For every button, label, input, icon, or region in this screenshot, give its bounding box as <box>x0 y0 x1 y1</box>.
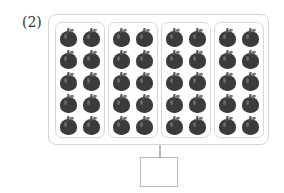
answer-box[interactable] <box>140 157 178 187</box>
apple-icon <box>59 50 78 69</box>
apple-icon <box>165 94 184 113</box>
apple-icon <box>165 72 184 91</box>
apple-icon <box>59 94 78 113</box>
apple-icon <box>82 94 101 113</box>
apple-icon <box>135 28 154 47</box>
apple-icon <box>241 50 260 69</box>
apple-icon <box>59 72 78 91</box>
apple-icon <box>241 28 260 47</box>
apple-group-1 <box>55 22 105 138</box>
apple-icon <box>218 28 237 47</box>
apple-icon <box>112 50 131 69</box>
problem-label: (2) <box>22 14 42 30</box>
apple-icon <box>188 72 207 91</box>
apple-icon <box>135 50 154 69</box>
apple-icon <box>241 94 260 113</box>
apple-icon <box>59 116 78 135</box>
apple-icon <box>218 94 237 113</box>
apple-icon <box>165 28 184 47</box>
apple-icon <box>135 94 154 113</box>
connector-line <box>159 145 161 157</box>
apple-icon <box>135 72 154 91</box>
apple-group-4 <box>214 22 264 138</box>
apple-icon <box>82 116 101 135</box>
apple-group-2 <box>108 22 158 138</box>
apple-icon <box>135 116 154 135</box>
apple-icon <box>218 72 237 91</box>
apple-icon <box>241 116 260 135</box>
apple-icon <box>82 72 101 91</box>
apple-icon <box>188 116 207 135</box>
apple-icon <box>188 50 207 69</box>
apple-group-3 <box>161 22 211 138</box>
apple-icon <box>82 50 101 69</box>
apple-icon <box>188 94 207 113</box>
apple-icon <box>112 28 131 47</box>
apple-icon <box>112 94 131 113</box>
apple-icon <box>82 28 101 47</box>
apple-icon <box>165 50 184 69</box>
apple-icon <box>241 72 260 91</box>
apple-icon <box>165 116 184 135</box>
groups-container <box>48 14 269 145</box>
apple-icon <box>218 116 237 135</box>
apple-icon <box>218 50 237 69</box>
apple-icon <box>112 72 131 91</box>
apple-icon <box>188 28 207 47</box>
apple-icon <box>112 116 131 135</box>
apple-icon <box>59 28 78 47</box>
